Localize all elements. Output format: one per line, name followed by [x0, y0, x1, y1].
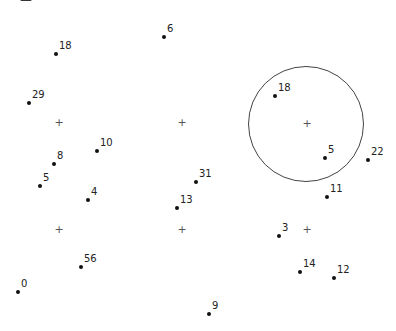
data-point: [79, 265, 83, 269]
centroid-cross-icon: +: [177, 224, 187, 235]
point-label: 22: [371, 147, 384, 157]
data-point: [332, 276, 336, 280]
data-point: [52, 162, 56, 166]
data-point: [298, 270, 302, 274]
data-point: [16, 290, 20, 294]
centroid-cross-icon: +: [54, 224, 64, 235]
data-point: [162, 35, 166, 39]
point-label: 18: [59, 41, 72, 51]
data-point: [323, 156, 327, 160]
data-point: [207, 312, 211, 316]
data-point: [27, 101, 31, 105]
data-point: [54, 52, 58, 56]
point-label: 5: [328, 145, 334, 155]
point-label: 11: [330, 184, 343, 194]
point-label: 5: [43, 173, 49, 183]
point-label: 6: [167, 24, 173, 34]
point-label: 8: [57, 151, 63, 161]
data-point: [277, 234, 281, 238]
point-label: 12: [337, 265, 350, 275]
data-point: [366, 158, 370, 162]
data-point: [273, 94, 277, 98]
point-label: 4: [91, 187, 97, 197]
point-label: 10: [100, 138, 113, 148]
point-label: 9: [212, 301, 218, 311]
centroid-cross-icon: +: [302, 224, 312, 235]
centroid-cross-icon: +: [302, 118, 312, 129]
data-point: [38, 184, 42, 188]
data-point: [325, 195, 329, 199]
centroid-cross-icon: +: [177, 117, 187, 128]
diagram-canvas: 186291085431135609185221131412++++++: [0, 0, 396, 331]
point-label: 13: [180, 195, 193, 205]
data-point: [194, 180, 198, 184]
point-label: 0: [21, 279, 27, 289]
point-label: 3: [282, 223, 288, 233]
point-label: 29: [32, 90, 45, 100]
point-label: 18: [278, 83, 291, 93]
point-label: 56: [84, 254, 97, 264]
data-point: [95, 149, 99, 153]
data-point: [86, 198, 90, 202]
point-label: 31: [199, 169, 212, 179]
point-label: 14: [303, 259, 316, 269]
centroid-cross-icon: +: [54, 117, 64, 128]
data-point: [175, 206, 179, 210]
clipped-top-mark: [20, 0, 32, 1]
